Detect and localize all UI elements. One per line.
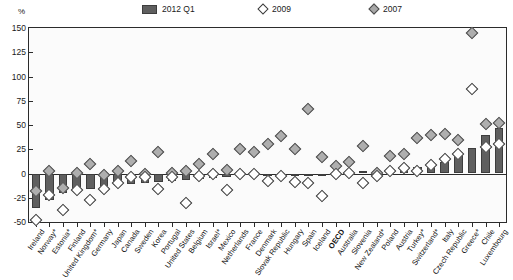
marker-2009 bbox=[29, 214, 42, 227]
legend-label-2007: 2007 bbox=[383, 5, 402, 14]
bar-swatch-icon bbox=[142, 5, 157, 14]
marker-2007 bbox=[275, 129, 288, 142]
marker-2009 bbox=[84, 193, 97, 206]
x-axis-tick-mark bbox=[213, 223, 214, 227]
marker-2007 bbox=[261, 138, 274, 151]
marker-2007 bbox=[288, 143, 301, 156]
y-axis-tick-label: -50 bbox=[14, 217, 26, 227]
bar-2012q1 bbox=[359, 171, 367, 174]
legend-label-2009: 2009 bbox=[272, 5, 291, 14]
marker-2007 bbox=[384, 150, 397, 163]
marker-2007 bbox=[466, 26, 479, 39]
bar-2012q1 bbox=[154, 174, 162, 183]
legend-item-2012q1[interactable]: 2012 Q1 bbox=[142, 2, 195, 16]
x-axis-tick-mark bbox=[118, 223, 119, 227]
y-axis-tick-mark bbox=[29, 52, 33, 53]
y-axis-tick-label: 100 bbox=[12, 72, 26, 82]
x-axis-tick-mark bbox=[131, 223, 132, 227]
bar-2012q1 bbox=[304, 174, 312, 176]
marker-2007 bbox=[438, 127, 451, 140]
marker-2007 bbox=[247, 146, 260, 159]
x-axis-tick-mark bbox=[90, 223, 91, 227]
marker-2009 bbox=[384, 164, 397, 177]
x-axis-tick-mark bbox=[308, 223, 309, 227]
marker-2009 bbox=[357, 177, 370, 190]
marker-2007 bbox=[302, 102, 315, 115]
marker-2009 bbox=[57, 204, 70, 217]
y-axis-unit-label: % bbox=[18, 7, 25, 16]
oecd-house-price-chart: 2012 Q1 2009 2007 % 1501251007550250-25-… bbox=[0, 0, 513, 280]
x-axis-tick-mark bbox=[158, 223, 159, 227]
x-axis-tick-mark bbox=[104, 223, 105, 227]
y-axis-tick-mark bbox=[29, 77, 33, 78]
x-axis-tick-mark bbox=[431, 223, 432, 227]
legend-label-2012q1: 2012 Q1 bbox=[162, 5, 195, 14]
legend-item-2009[interactable]: 2009 bbox=[259, 2, 291, 16]
x-axis-tick-mark bbox=[281, 223, 282, 227]
marker-2007 bbox=[316, 151, 329, 164]
x-axis-tick-mark bbox=[363, 223, 364, 227]
x-axis-tick-mark bbox=[49, 223, 50, 227]
y-axis-tick-label: 150 bbox=[12, 23, 26, 33]
marker-2007 bbox=[125, 155, 138, 168]
x-axis-tick-mark bbox=[486, 223, 487, 227]
marker-2007 bbox=[207, 148, 220, 161]
marker-2009 bbox=[247, 168, 260, 181]
x-axis-tick-mark bbox=[322, 223, 323, 227]
x-axis-tick-mark bbox=[63, 223, 64, 227]
bar-2012q1 bbox=[318, 174, 326, 176]
marker-2007 bbox=[452, 133, 465, 146]
marker-2009 bbox=[261, 175, 274, 188]
x-axis-tick-mark bbox=[377, 223, 378, 227]
y-axis-tick-label: 25 bbox=[17, 144, 26, 154]
marker-2007 bbox=[152, 146, 165, 159]
marker-2009 bbox=[234, 167, 247, 180]
plot-area: 1501251007550250-25-50 bbox=[28, 27, 507, 223]
x-axis-tick-mark bbox=[499, 223, 500, 227]
x-axis-tick-mark bbox=[390, 223, 391, 227]
open-diamond-icon bbox=[257, 3, 268, 14]
x-axis-tick-mark bbox=[417, 223, 418, 227]
x-axis-tick-mark bbox=[445, 223, 446, 227]
marker-2009 bbox=[207, 168, 220, 181]
x-axis-tick-mark bbox=[472, 223, 473, 227]
y-axis-tick-label: 50 bbox=[17, 120, 26, 130]
legend-item-2007[interactable]: 2007 bbox=[370, 2, 402, 16]
chart-legend: 2012 Q1 2009 2007 bbox=[0, 0, 513, 18]
x-axis-tick-mark bbox=[186, 223, 187, 227]
marker-2009 bbox=[275, 170, 288, 183]
marker-2009 bbox=[466, 83, 479, 96]
x-axis-tick-mark bbox=[172, 223, 173, 227]
marker-2007 bbox=[357, 140, 370, 153]
plot-inner: 1501251007550250-25-50 bbox=[29, 28, 506, 222]
x-axis-tick-mark bbox=[458, 223, 459, 227]
x-axis-tick-mark bbox=[240, 223, 241, 227]
x-axis-tick-mark bbox=[349, 223, 350, 227]
x-axis-tick-mark bbox=[145, 223, 146, 227]
y-axis-tick-label: -25 bbox=[14, 193, 26, 203]
marker-2009 bbox=[316, 189, 329, 202]
bar-2012q1 bbox=[495, 128, 503, 174]
bar-2012q1 bbox=[468, 148, 476, 173]
marker-2009 bbox=[329, 168, 342, 181]
x-axis-tick-mark bbox=[254, 223, 255, 227]
x-axis-tick-mark bbox=[295, 223, 296, 227]
marker-2009 bbox=[152, 183, 165, 196]
x-axis-tick-mark bbox=[199, 223, 200, 227]
y-axis-tick-label: 75 bbox=[17, 96, 26, 106]
marker-2007 bbox=[193, 157, 206, 170]
y-axis-tick-label: 0 bbox=[21, 169, 26, 179]
filled-diamond-icon bbox=[368, 3, 379, 14]
marker-2007 bbox=[234, 143, 247, 156]
marker-2007 bbox=[397, 148, 410, 161]
marker-2009 bbox=[302, 177, 315, 190]
marker-2009 bbox=[288, 176, 301, 189]
marker-2009 bbox=[343, 166, 356, 179]
y-axis-tick-label: 125 bbox=[12, 47, 26, 57]
x-axis-tick-mark bbox=[227, 223, 228, 227]
marker-2007 bbox=[425, 128, 438, 141]
marker-2007 bbox=[411, 131, 424, 144]
marker-2009 bbox=[193, 170, 206, 183]
y-axis-tick-mark bbox=[29, 101, 33, 102]
marker-2007 bbox=[479, 118, 492, 131]
